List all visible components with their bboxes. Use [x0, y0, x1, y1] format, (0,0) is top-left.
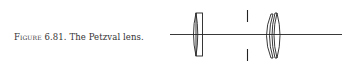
petzval-lens-diagram: [0, 0, 355, 74]
rear-lens-group: [267, 13, 281, 58]
